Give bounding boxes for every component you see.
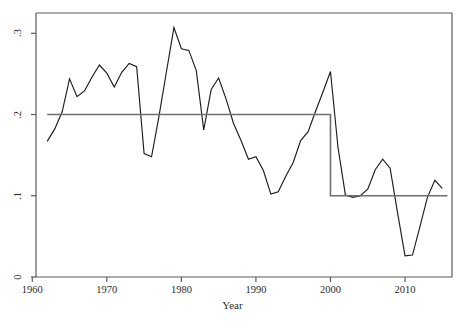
x-tick-label: 2000	[310, 285, 350, 296]
x-tick-label: 2010	[385, 285, 425, 296]
chart-plot-area	[0, 0, 465, 321]
x-tick-label: 1980	[161, 285, 201, 296]
x-axis-title: Year	[0, 300, 465, 311]
axes-frame	[36, 13, 452, 277]
y-tick-label: .3	[12, 23, 24, 43]
y-tick-label: .2	[12, 105, 24, 125]
chart-figure: 196019701980199020002010 0.1.2.3 Year	[0, 0, 465, 321]
data-series-layer	[47, 28, 447, 256]
x-tick-label: 1990	[236, 285, 276, 296]
y-tick-label: 0	[12, 267, 24, 287]
x-tick-label: 1970	[87, 285, 127, 296]
data-line	[47, 28, 442, 256]
y-tick-label: .1	[12, 186, 24, 206]
y-axis-ticks	[31, 33, 36, 277]
x-axis-ticks	[32, 277, 405, 282]
axes-box-outline	[36, 13, 452, 277]
